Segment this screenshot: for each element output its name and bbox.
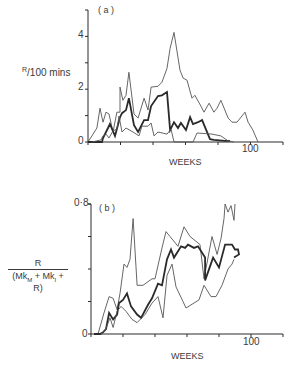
series-line-middle [94,245,239,334]
panel-b-plot [88,204,283,337]
panel-a-xtick-100: 100 [242,143,259,154]
panel-b-ylabel-numerator: R [8,258,68,270]
panel-a-xlabel: WEEKS [169,157,202,167]
panel-a-ytick-2: 2 [78,81,84,92]
panel-b-ytick-08: 0·8 [74,197,88,208]
panel-a-plot [85,10,283,145]
panel-b-label: ( b ) [99,203,115,213]
panel-b-ylabel: R (MkM + MkI + R) [8,258,68,293]
series-line-lower [101,259,234,334]
panel-a-label: ( a ) [98,5,114,15]
panel-a-ytick-4: 4 [78,29,84,40]
panel-b-xtick-100: 100 [243,336,260,347]
panel-a-ylabel: R/100 mins [22,66,70,78]
panel-b-ylabel-denominator: (MkM + MkI + R) [8,270,68,293]
panel-b-xlabel: WEEKS [171,351,204,361]
series-line-upper [98,204,235,334]
figure-canvas [0,0,293,368]
panel-a-ylabel-rest: /100 mins [27,67,70,78]
panel-b-ytick-0: 0 [82,328,88,339]
panel-a-ytick-0: 0 [78,135,84,146]
den-part-2: + Mk [32,271,54,281]
den-part-1: (Mk [12,271,27,281]
